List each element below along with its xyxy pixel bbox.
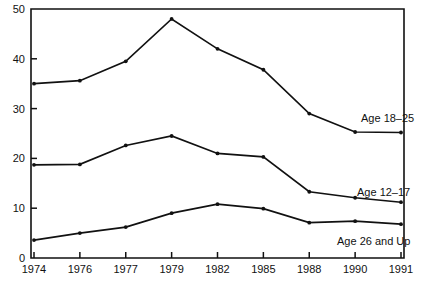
data-point	[170, 17, 174, 21]
series-line	[34, 19, 401, 133]
data-point	[307, 221, 311, 225]
data-point	[353, 219, 357, 223]
x-axis-tick-labels: 197419761977197919821985198819901991	[22, 263, 413, 275]
series-label-age-18-25: Age 18–25	[361, 112, 414, 124]
x-tick-label: 1982	[205, 263, 229, 275]
series-line	[34, 136, 401, 202]
data-point	[399, 200, 403, 204]
chart-container: 01020304050 1974197619771979198219851988…	[0, 0, 430, 290]
x-tick-label: 1977	[114, 263, 138, 275]
data-point	[170, 211, 174, 215]
data-point	[399, 222, 403, 226]
data-point	[307, 112, 311, 116]
data-point	[32, 163, 36, 167]
x-tick-label: 1976	[68, 263, 92, 275]
y-tick-label: 40	[13, 53, 25, 65]
data-point	[399, 131, 403, 135]
data-point	[32, 238, 36, 242]
series-label-age-26-and-up: Age 26 and Up	[337, 235, 410, 247]
data-point	[216, 202, 220, 206]
x-tick-label: 1974	[22, 263, 46, 275]
series-group	[32, 17, 403, 242]
x-tick-label: 1979	[159, 263, 183, 275]
data-point	[124, 225, 128, 229]
x-tick-label: 1991	[389, 263, 413, 275]
y-tick-label: 30	[13, 103, 25, 115]
data-point	[261, 207, 265, 211]
series-label-age-12-17: Age 12–17	[357, 186, 410, 198]
y-tick-label: 10	[13, 202, 25, 214]
line-chart: 01020304050 1974197619771979198219851988…	[0, 0, 430, 290]
x-axis-ticks	[34, 252, 401, 258]
data-point	[124, 144, 128, 148]
series-2	[32, 134, 403, 204]
x-tick-label: 1988	[297, 263, 321, 275]
y-axis-ticks	[31, 59, 37, 208]
y-tick-label: 20	[13, 152, 25, 164]
data-point	[78, 79, 82, 83]
series-1	[32, 17, 403, 134]
x-tick-label: 1985	[251, 263, 275, 275]
data-point	[216, 47, 220, 51]
x-tick-label: 1990	[343, 263, 367, 275]
data-point	[170, 134, 174, 138]
data-point	[307, 190, 311, 194]
data-point	[78, 231, 82, 235]
data-point	[32, 82, 36, 86]
y-tick-label: 50	[13, 3, 25, 15]
data-point	[78, 162, 82, 166]
data-point	[124, 59, 128, 63]
y-axis-tick-labels: 01020304050	[13, 3, 25, 264]
data-point	[261, 155, 265, 159]
data-point	[353, 130, 357, 134]
data-point	[261, 68, 265, 72]
data-point	[216, 152, 220, 156]
